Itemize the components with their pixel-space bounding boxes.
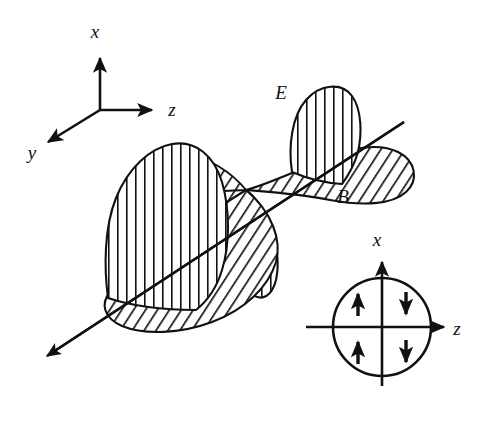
- z-axis-label: z: [167, 99, 176, 120]
- figure-canvas: x z y E B: [0, 0, 490, 424]
- em-wave-figure: x z y E B: [0, 0, 490, 424]
- inset-x-axis-label: x: [372, 229, 382, 250]
- b-field-label: B: [337, 186, 349, 207]
- inset-z-axis-label: z: [452, 318, 461, 339]
- x-axis-label: x: [90, 21, 100, 42]
- e-field-label: E: [274, 82, 287, 103]
- y-axis-label: y: [26, 142, 37, 163]
